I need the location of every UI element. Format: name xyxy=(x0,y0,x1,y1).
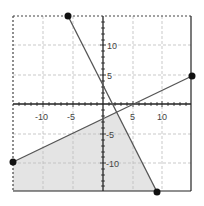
point-bottom xyxy=(154,189,161,196)
svg-text:-5: -5 xyxy=(67,112,75,122)
svg-text:5: 5 xyxy=(107,71,112,81)
svg-text:10: 10 xyxy=(157,112,167,122)
svg-text:-10: -10 xyxy=(35,112,48,122)
svg-text:-10: -10 xyxy=(106,159,119,169)
svg-text:5: 5 xyxy=(130,112,135,122)
svg-text:-5: -5 xyxy=(106,130,114,140)
svg-text:10: 10 xyxy=(107,41,117,51)
point-right xyxy=(189,73,196,80)
point-top xyxy=(65,13,72,20)
point-left xyxy=(10,159,17,166)
chart: -10 -5 5 10 10 5 -5 -10 xyxy=(0,0,204,206)
